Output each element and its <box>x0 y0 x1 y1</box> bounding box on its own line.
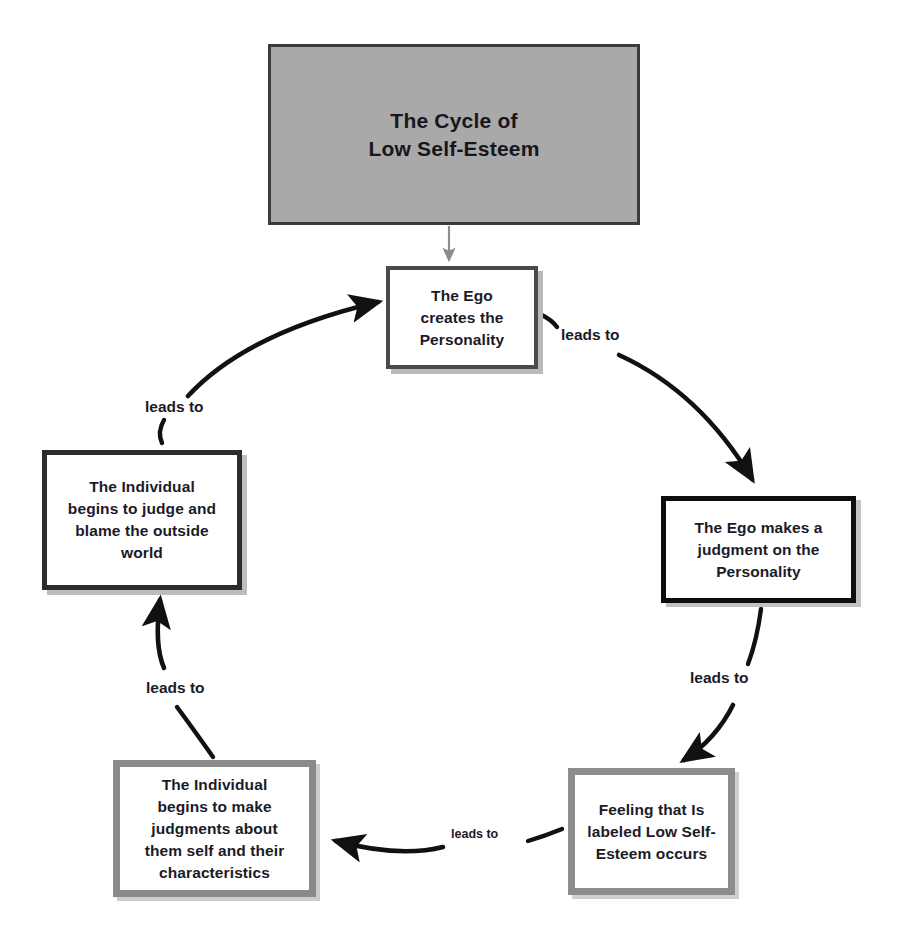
node-individual-blames-outside-world: The Individual begins to judge and blame… <box>42 450 242 590</box>
node-individual-blames-outside-world-text: The Individual begins to judge and blame… <box>62 476 222 564</box>
diagram-canvas: The Cycle of Low Self-Esteem <box>0 0 898 946</box>
node-line: judgment on the <box>697 541 819 558</box>
node-line: The Individual <box>89 478 195 495</box>
edge-label-ego-creates-to-ego-judges: leads to <box>561 326 620 344</box>
node-line: The Ego <box>431 287 493 304</box>
node-ego-creates-personality-text: The Ego creates the Personality <box>414 285 511 351</box>
node-line: world <box>121 544 163 561</box>
arrow-individual-judges-self-to-blames-world-b <box>158 600 164 668</box>
edge-label-blames-world-to-ego-creates: leads to <box>145 398 204 416</box>
edge-label-ego-judges-to-feeling: leads to <box>690 669 749 687</box>
node-line: blame the outside <box>75 522 208 539</box>
node-feeling-low-self-esteem: Feeling that Is labeled Low Self- Esteem… <box>568 768 735 895</box>
arrow-feeling-to-individual-judges-self-b <box>336 841 443 851</box>
node-line: Feeling that Is <box>599 801 705 818</box>
node-line: them self and their <box>145 842 285 859</box>
diagram-title-text: The Cycle of Low Self-Esteem <box>368 107 539 162</box>
arrow-feeling-to-individual-judges-self-a <box>528 829 562 841</box>
arrow-blames-world-to-ego-creates-a <box>160 420 164 443</box>
node-line: Personality <box>420 331 505 348</box>
diagram-title-box: The Cycle of Low Self-Esteem <box>268 44 640 225</box>
node-line: judgments about <box>151 820 277 837</box>
arrow-ego-judges-to-feeling-b <box>684 705 733 760</box>
node-ego-makes-judgment: The Ego makes a judgment on the Personal… <box>661 496 856 603</box>
edge-label-individual-judges-self-to-blames-world: leads to <box>146 679 205 697</box>
node-line: Personality <box>716 563 801 580</box>
node-line: labeled Low Self- <box>587 823 715 840</box>
edge-label-feeling-to-individual-judges-self: leads to <box>451 827 498 841</box>
node-line: Esteem occurs <box>596 845 708 862</box>
arrow-blames-world-to-ego-creates-b <box>188 302 378 396</box>
diagram-title-line-1: The Cycle of <box>390 109 517 132</box>
node-line: creates the <box>421 309 504 326</box>
node-line: begins to make <box>157 798 271 815</box>
node-ego-creates-personality: The Ego creates the Personality <box>386 266 538 369</box>
node-line: The Individual <box>162 776 268 793</box>
node-ego-makes-judgment-text: The Ego makes a judgment on the Personal… <box>688 517 828 583</box>
node-line: begins to judge and <box>68 500 216 517</box>
node-line: characteristics <box>159 864 270 881</box>
node-line: The Ego makes a <box>694 519 822 536</box>
arrow-ego-creates-to-ego-judges-a <box>540 314 557 327</box>
node-feeling-low-self-esteem-text: Feeling that Is labeled Low Self- Esteem… <box>581 799 721 865</box>
arrow-ego-creates-to-ego-judges-b <box>619 355 752 479</box>
arrow-individual-judges-self-to-blames-world-a <box>177 707 213 757</box>
node-individual-judges-self-text: The Individual begins to make judgments … <box>139 774 291 884</box>
arrow-ego-judges-to-feeling-a <box>748 609 761 664</box>
node-individual-judges-self: The Individual begins to make judgments … <box>113 760 316 897</box>
diagram-title-line-2: Low Self-Esteem <box>368 137 539 160</box>
